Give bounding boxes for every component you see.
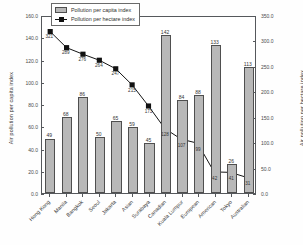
y-axis-left-tick-mark (41, 16, 44, 17)
chart-legend: Pollution per capita index Pollution per… (51, 3, 140, 26)
y-axis-left-tick-mark (41, 61, 44, 62)
bar-value-label: 142 (153, 29, 177, 35)
y-axis-right-tick-label: 250.0 (261, 64, 285, 70)
chart-figure: Air pollution per capita index Air pollu… (0, 0, 303, 245)
bar-value-label: 133 (203, 39, 227, 45)
y-axis-left-tick-label: 140.0 (16, 35, 38, 41)
bar-value-label: 26 (219, 158, 243, 164)
bar (161, 35, 171, 193)
y-axis-left-tick-mark (41, 105, 44, 106)
x-axis-tick-mark (66, 194, 67, 197)
x-axis-tick-mark (198, 194, 199, 197)
y-axis-right-tick-label: 300.0 (261, 38, 285, 44)
line-value-label: 128 (153, 132, 177, 137)
y-axis-left-tick-label: 100.0 (16, 80, 38, 86)
x-axis-tick-mark (132, 194, 133, 197)
line-value-label: 215 (120, 88, 144, 93)
bar-value-label: 50 (87, 131, 111, 137)
x-axis-tick-mark (231, 194, 232, 197)
bar-value-label: 113 (236, 61, 260, 67)
x-axis-tick-mark (82, 194, 83, 197)
bar-value-label: 59 (120, 121, 144, 127)
y-axis-left-tick-mark (41, 150, 44, 151)
y-axis-right-tick-label: 0.0 (261, 191, 285, 197)
y-axis-right-tick-label: 100.0 (261, 140, 285, 146)
bar-value-label: 65 (103, 115, 127, 121)
bar (95, 137, 105, 193)
line-value-label: 31 (236, 181, 260, 186)
y-axis-right-tick-label: 200.0 (261, 89, 285, 95)
bar-value-label: 86 (70, 91, 94, 97)
x-axis-tick-mark (248, 194, 249, 197)
legend-label-line: Pollution per hectare index (71, 16, 135, 22)
y-axis-left-tick-mark (41, 83, 44, 84)
bar-value-label: 88 (186, 89, 210, 95)
line-value-label: 289 (54, 50, 78, 55)
line-value-label: 321 (37, 34, 61, 39)
legend-item-line: Pollution per hectare index (55, 15, 135, 23)
x-axis-tick-mark (182, 194, 183, 197)
y-axis-left-tick-mark (41, 127, 44, 128)
y-axis-right-tick-mark (253, 16, 256, 17)
line-value-label: 276 (70, 57, 94, 62)
line-value-label: 99 (186, 147, 210, 152)
bar (111, 121, 121, 193)
y-axis-right-tick-mark (253, 118, 256, 119)
y-axis-left-tick-label: 80.0 (16, 102, 38, 108)
y-axis-right-tick-label: 350.0 (261, 13, 285, 19)
y-axis-left-tick-label: 160.0 (16, 13, 38, 19)
bar (244, 67, 254, 193)
y-axis-left-tick-mark (41, 194, 44, 195)
y-axis-right-tick-mark (253, 41, 256, 42)
line-value-label: 247 (103, 71, 127, 76)
y-axis-right-title: Air pollution per hectare index (299, 53, 303, 163)
bar (144, 143, 154, 193)
bar (62, 117, 72, 193)
y-axis-right-tick-mark (253, 143, 256, 144)
legend-item-bar: Pollution per capita index (55, 6, 135, 14)
y-axis-left-tick-label: 60.0 (16, 124, 38, 130)
y-axis-right-tick-label: 50.0 (261, 166, 285, 172)
y-axis-left-title: Air pollution per capita index (8, 53, 14, 163)
y-axis-right-tick-label: 150.0 (261, 115, 285, 121)
bar-value-label: 45 (137, 137, 161, 143)
bar-value-label: 49 (37, 132, 61, 138)
bar-value-label: 68 (54, 111, 78, 117)
y-axis-left-tick-label: 20.0 (16, 169, 38, 175)
y-axis-right-tick-mark (253, 169, 256, 170)
legend-label-bar: Pollution per capita index (71, 7, 131, 13)
x-axis-tick-mark (99, 194, 100, 197)
y-axis-left-tick-mark (41, 172, 44, 173)
line-marker (146, 103, 151, 108)
y-axis-right-tick-mark (253, 194, 256, 195)
y-axis-right-tick-mark (253, 92, 256, 93)
line-value-label: 264 (87, 63, 111, 68)
x-axis-tick-mark (165, 194, 166, 197)
line-marker-icon (55, 16, 67, 22)
y-axis-left-tick-label: 40.0 (16, 147, 38, 153)
bar (78, 97, 88, 193)
line-value-label: 173 (137, 109, 161, 114)
x-axis-tick-mark (149, 194, 150, 197)
y-axis-left-tick-label: 0.0 (16, 191, 38, 197)
bar-swatch-icon (55, 7, 67, 13)
x-axis-tick-mark (215, 194, 216, 197)
x-axis-tick-mark (49, 194, 50, 197)
bar (211, 45, 221, 193)
y-axis-left-tick-label: 120.0 (16, 58, 38, 64)
x-axis-tick-mark (115, 194, 116, 197)
bar (45, 139, 55, 194)
